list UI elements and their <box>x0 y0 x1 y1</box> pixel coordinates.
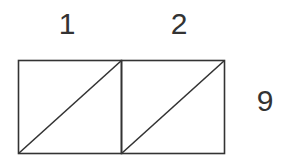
grid-diagram <box>0 0 288 157</box>
row-label: 9 <box>257 86 274 116</box>
column-label-2: 2 <box>171 9 188 39</box>
cell-2-diagonal <box>122 61 225 154</box>
column-label-1: 1 <box>59 9 76 39</box>
cell-1-diagonal <box>19 61 122 154</box>
